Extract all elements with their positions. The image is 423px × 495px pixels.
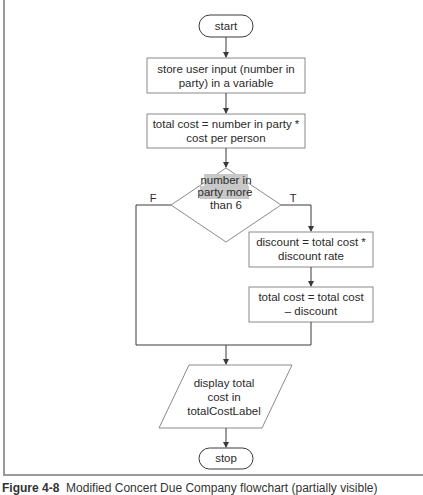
flowchart: start store user input (number in party)… (0, 0, 411, 480)
apply-discount-line-1: total cost = total cost (258, 291, 364, 303)
display-io: display total cost in totalCostLabel (159, 365, 292, 428)
apply-discount-process: total cost = total cost – discount (249, 287, 373, 322)
start-terminator: start (199, 15, 253, 37)
calc-discount-line-1: discount = total cost * (256, 236, 366, 248)
display-line-1: display total (194, 377, 255, 389)
decision-line-3: than 6 (210, 199, 242, 211)
apply-discount-line-2: – discount (285, 305, 338, 317)
store-input-process: store user input (number in party) in a … (147, 58, 305, 93)
figure-caption: Figure 4-8 Modified Concert Due Company … (2, 481, 378, 495)
figure-caption-text: Modified Concert Due Company flowchart (… (66, 481, 377, 495)
decision-line-1: number in (200, 174, 251, 186)
store-input-line-2: party) in a variable (179, 77, 274, 89)
decision-line-2: party more (198, 186, 253, 198)
false-branch-label: F (150, 192, 157, 204)
figure-number: Figure 4-8 (2, 481, 59, 495)
edge-merge (136, 322, 311, 345)
calc-total-line-1: total cost = number in party * (153, 118, 300, 130)
store-input-line-1: store user input (number in (157, 63, 294, 75)
calc-discount-process: discount = total cost * discount rate (249, 232, 373, 267)
display-line-2: cost in (207, 391, 240, 403)
calc-total-process: total cost = number in party * cost per … (147, 114, 305, 148)
stop-terminator: stop (199, 448, 253, 469)
display-line-3: totalCostLabel (187, 405, 261, 417)
stop-label: stop (215, 452, 237, 464)
calc-discount-line-2: discount rate (278, 250, 344, 262)
calc-total-line-2: cost per person (186, 132, 265, 144)
edge-true-branch (281, 205, 311, 231)
start-label: start (215, 20, 238, 32)
edge-false-branch (136, 205, 171, 345)
decision-diamond: number in party more than 6 (171, 168, 281, 242)
true-branch-label: T (290, 192, 297, 204)
